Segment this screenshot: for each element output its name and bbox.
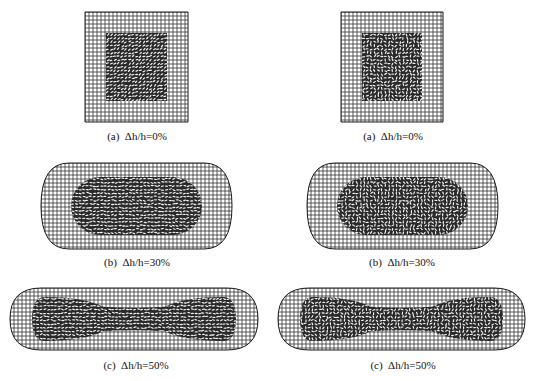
particle	[154, 340, 158, 343]
particle	[336, 317, 339, 318]
particle	[396, 188, 397, 191]
particle	[193, 181, 197, 183]
particle	[87, 341, 90, 342]
particle	[234, 301, 238, 303]
particle	[406, 185, 409, 186]
particle	[384, 235, 387, 239]
particle	[78, 297, 82, 299]
particle	[70, 191, 74, 194]
particle	[394, 304, 397, 308]
particle	[74, 235, 78, 237]
particle	[464, 181, 467, 185]
particle	[361, 301, 365, 303]
particle	[423, 311, 424, 314]
particle	[172, 235, 176, 237]
panel-caption: Δh/h=50%	[121, 359, 169, 371]
particle	[118, 305, 122, 307]
particle	[481, 304, 482, 307]
particle	[165, 341, 169, 343]
particle	[136, 317, 139, 318]
particle	[463, 178, 466, 182]
panel-label: (b)	[369, 256, 382, 268]
particle	[125, 236, 129, 238]
particle	[90, 341, 94, 343]
particle	[498, 340, 500, 344]
particle	[365, 298, 368, 301]
particle	[197, 235, 201, 237]
panel-right-c	[278, 288, 525, 350]
particle	[107, 236, 111, 238]
particle	[463, 224, 466, 227]
particle	[111, 236, 115, 238]
caption-left-a: (a) Δh/h=0%	[37, 130, 237, 142]
particle	[219, 341, 222, 342]
particle	[103, 340, 107, 342]
particle	[441, 297, 445, 300]
particle	[90, 338, 93, 339]
panel-label: (c)	[370, 359, 382, 371]
particle	[191, 341, 195, 343]
particle	[351, 235, 355, 238]
caption-right-c: (c) Δh/h=50%	[303, 359, 503, 371]
particle	[154, 305, 158, 307]
caption-right-a: (a) Δh/h=0%	[293, 130, 493, 142]
particle	[190, 185, 193, 186]
particle	[460, 178, 462, 182]
panel-caption: Δh/h=30%	[387, 256, 435, 268]
particle	[384, 56, 387, 57]
particle	[351, 185, 354, 186]
particle	[71, 231, 75, 233]
particle	[139, 306, 143, 308]
particle	[179, 298, 183, 300]
particle	[86, 337, 90, 339]
panel-label: (a)	[107, 130, 119, 142]
particle	[441, 235, 444, 238]
particle	[362, 235, 365, 238]
particle	[380, 304, 383, 307]
particle	[135, 178, 138, 179]
particle	[85, 232, 89, 234]
panel-caption: Δh/h=50%	[388, 359, 436, 371]
particle	[72, 224, 76, 226]
particle	[46, 342, 49, 344]
particle	[230, 341, 234, 343]
particle	[101, 337, 105, 339]
particle	[441, 340, 444, 343]
particle	[129, 323, 132, 324]
particle	[179, 192, 182, 193]
particle	[179, 236, 183, 238]
particle	[348, 216, 349, 219]
particle	[118, 236, 122, 238]
particle	[397, 341, 400, 345]
particle	[76, 297, 80, 299]
particle	[158, 301, 162, 303]
particle	[352, 297, 354, 301]
particle	[413, 44, 414, 47]
particle	[386, 340, 389, 343]
particle	[354, 298, 357, 301]
particle	[358, 297, 360, 301]
particle	[337, 225, 341, 227]
particle	[75, 225, 78, 226]
particle	[183, 323, 186, 324]
particle	[79, 228, 83, 230]
particle	[176, 341, 180, 343]
particle	[383, 301, 387, 303]
particle	[61, 320, 64, 321]
panel-caption: Δh/h=0%	[381, 130, 423, 142]
particle	[187, 335, 190, 336]
particle	[101, 301, 105, 303]
particle	[47, 338, 50, 339]
particle	[230, 327, 233, 328]
particle	[459, 232, 462, 233]
caption-right-b: (b) Δh/h=30%	[302, 256, 502, 268]
particle	[390, 304, 393, 308]
particle	[169, 324, 172, 325]
particle	[426, 305, 430, 307]
panel-label: (a)	[363, 130, 375, 142]
particle	[216, 341, 220, 343]
particle	[147, 235, 150, 237]
particle	[144, 334, 148, 336]
particle	[391, 337, 395, 340]
particle	[194, 341, 198, 343]
